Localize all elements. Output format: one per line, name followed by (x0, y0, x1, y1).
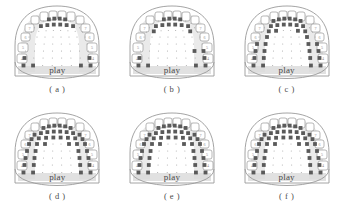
electrode-contact-on (275, 130, 279, 134)
electrode-contact-on (288, 23, 292, 27)
electrode-contact-on (196, 137, 200, 141)
electrode-contact-on (308, 163, 312, 167)
tooth (191, 123, 199, 131)
electrode-contact-off (290, 30, 291, 31)
electrode-contact-off (158, 157, 159, 158)
electrode-contact-off (167, 43, 168, 44)
palate-wrap: 76547654play (5, 2, 109, 84)
electrode-contact-on (315, 149, 319, 153)
electrode-contact-on (138, 56, 142, 60)
tooth: 6 (200, 33, 209, 41)
stimulus-word-label: play (5, 172, 109, 182)
electrode-contact-off (34, 57, 35, 58)
electrode-contact-off (273, 50, 274, 51)
electrode-contact-off (53, 36, 54, 37)
electrode-contact-off (38, 23, 39, 24)
palate-wrap: 76547654play (235, 2, 339, 84)
tooth-label: 4 (322, 56, 324, 61)
electrode-contact-on (30, 137, 34, 141)
electrode-contact-off (71, 57, 72, 58)
electrode-contact-on (160, 130, 164, 134)
electrode-contact-on (269, 24, 273, 28)
electrode-contact-off (53, 143, 54, 144)
tooth-label: 7 (314, 26, 316, 31)
tooth: 7 (140, 24, 149, 32)
electrode-contact-off (274, 36, 275, 37)
electrode-contact-off (299, 43, 300, 44)
electrode-contact-off (167, 157, 168, 158)
electrode-contact-off (281, 57, 282, 58)
tooth (40, 12, 48, 21)
electrode-contact-on (307, 156, 311, 160)
tooth-label: 5 (137, 45, 139, 50)
tooth-label: 4 (92, 163, 94, 168)
electrode-contact-off (53, 30, 54, 31)
tooth-label: 6 (89, 142, 91, 147)
electrode-contact-on (178, 17, 182, 21)
tooth: 5 (133, 43, 143, 52)
tooth (306, 16, 314, 24)
electrode-contact-off (195, 57, 196, 58)
electrode-contact-off (61, 50, 62, 51)
electrode-contact-on (167, 130, 171, 134)
electrode-contact-on (306, 42, 310, 46)
electrode-contact-on (160, 23, 164, 27)
electrode-contact-on (23, 163, 27, 167)
electrode-contact-on (69, 126, 73, 130)
electrode-contact-off (149, 50, 150, 51)
electrode-contact-on (271, 19, 275, 23)
electrode-contact-off (70, 50, 71, 51)
electrode-contact-off (146, 32, 147, 33)
electrode-contact-on (42, 126, 46, 130)
electrode-contact-off (45, 36, 46, 37)
electrode-contact-off (87, 43, 88, 44)
electrode-contact-on (180, 130, 184, 134)
electrode-contact-off (52, 57, 53, 58)
electrode-contact-off (167, 36, 168, 37)
electrode-contact-off (290, 150, 291, 151)
electrode-contact-on (59, 136, 63, 140)
electrode-contact-on (159, 136, 163, 140)
electrode-contact-off (290, 143, 291, 144)
tooth (182, 12, 190, 21)
electrode-contact-on (64, 124, 68, 128)
electrode-contact-off (43, 57, 44, 58)
electrode-contact-off (199, 36, 200, 37)
panel-caption-e: ( e ) (164, 192, 180, 201)
electrode-contact-on (310, 137, 314, 141)
electrode-contact-off (272, 164, 273, 165)
tooth-label: 6 (139, 35, 141, 40)
electrode-contact-on (43, 142, 47, 146)
electrode-contact-off (158, 20, 159, 21)
electrode-contact-on (262, 49, 266, 53)
electrode-contact-off (167, 164, 168, 165)
electrode-contact-on (252, 163, 256, 167)
electrode-contact-on (139, 156, 143, 160)
electrode-contact-off (38, 130, 39, 131)
electrode-contact-off (61, 164, 62, 165)
electrode-contact-off (185, 164, 186, 165)
electrode-contact-off (193, 43, 194, 44)
electrode-contact-off (167, 50, 168, 51)
electrode-contact-off (272, 57, 273, 58)
electrode-contact-on (85, 149, 89, 153)
tooth-label: 7 (29, 133, 31, 138)
electrode-contact-on (305, 35, 309, 39)
electrode-contact-off (43, 164, 44, 165)
electrode-contact-off (201, 43, 202, 44)
electrode-contact-off (43, 20, 44, 21)
tooth (306, 123, 314, 131)
tooth-label: 5 (206, 45, 208, 50)
electrode-contact-on (78, 156, 82, 160)
electrode-contact-on (145, 137, 149, 141)
electrode-contact-off (282, 50, 283, 51)
tooth (76, 16, 84, 24)
electrode-contact-off (159, 150, 160, 151)
electrode-contact-on (39, 131, 43, 135)
electrode-contact-on (148, 133, 152, 137)
tooth-label: 7 (85, 133, 87, 138)
tooth: 6 (85, 33, 94, 41)
electrode-contact-on (287, 17, 291, 21)
electrode-contact-off (182, 30, 183, 31)
tooth (155, 12, 163, 21)
